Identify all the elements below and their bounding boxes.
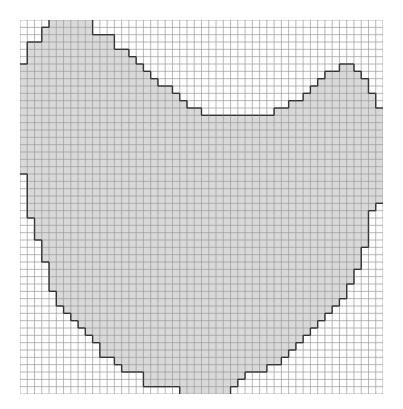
grid-figure xyxy=(20,20,383,394)
grid-svg xyxy=(20,20,383,394)
